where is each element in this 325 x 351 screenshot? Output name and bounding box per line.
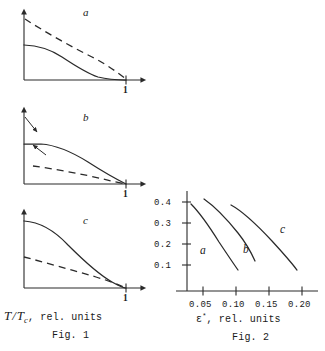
panel-b-annotation-arrow-top	[25, 117, 37, 132]
fig2-y-label-1: 0.4	[154, 198, 171, 208]
fig2-y-label-3: 0.2	[154, 240, 171, 250]
fig1-caption: Fig. 1	[52, 330, 89, 341]
fig2-x-label-2: 0.10	[222, 300, 245, 310]
panel-c-x-tick-label: 1	[123, 293, 128, 303]
fig2-x-label-4: 0.20	[288, 300, 311, 310]
panel-b-label: b	[83, 111, 89, 123]
fig2-axis-caption: ε*, rel. units	[196, 312, 281, 325]
fig1-caption-group: T/Tc, rel. units Fig. 1	[4, 308, 102, 341]
figure-root: a 1 b 1 c 1 T/Tc, rel.	[0, 0, 325, 351]
panel-b-dashed-curve	[33, 166, 126, 184]
fig1-axis-caption: T/Tc, rel. units	[4, 308, 102, 325]
fig2-y-label-2: 0.3	[154, 219, 171, 229]
fig2-y-label-4: 0.1	[154, 261, 171, 271]
fig2-axis-units: , rel. units	[206, 314, 280, 325]
fig2-caption-group: ε*, rel. units Fig. 2	[196, 312, 281, 343]
fig1-panel-c: c 1	[24, 214, 141, 303]
panel-a-solid-curve	[24, 45, 126, 80]
fig1-panel-b: b 1	[24, 111, 141, 199]
scientific-figure-svg: a 1 b 1 c 1 T/Tc, rel.	[0, 0, 325, 351]
panel-a-dashed-curve	[25, 19, 126, 79]
panel-c-dashed-curve	[24, 257, 126, 288]
panel-b-x-tick-label: 1	[123, 189, 128, 199]
fig2-curve-c-label: c	[280, 223, 285, 235]
fig2-curve-a-label: a	[200, 244, 206, 256]
panel-c-label: c	[83, 214, 88, 226]
fig1-axis-numerator: T	[4, 308, 12, 323]
panel-a-x-tick-label: 1	[123, 85, 128, 95]
fig2-curve-a	[191, 204, 238, 270]
panel-b-annotation-arrow-curve	[33, 145, 46, 155]
fig2-x-label-1: 0.05	[189, 300, 212, 310]
fig2-curve-b-label: b	[243, 243, 249, 255]
fig2-x-label-3: 0.15	[255, 300, 278, 310]
fig2-plot: 0.4 0.3 0.2 0.1 0.05 0.10 0.15 0.20 a b …	[154, 191, 318, 310]
fig1-panel-a: a 1	[24, 6, 141, 95]
panel-a-label: a	[83, 6, 89, 18]
panel-c-solid-curve	[24, 221, 126, 288]
fig2-caption: Fig. 2	[232, 332, 269, 343]
fig1-axis-units: , rel. units	[28, 312, 102, 323]
